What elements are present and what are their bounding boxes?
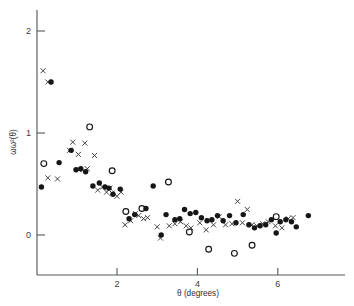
x-tick-label: 6 bbox=[275, 279, 280, 289]
point-cross bbox=[235, 199, 240, 204]
point-cross bbox=[197, 220, 202, 225]
point-filled-circle bbox=[246, 222, 251, 227]
x-axis-label: θ (degrees) bbox=[177, 289, 219, 298]
point-filled-circle bbox=[83, 169, 88, 174]
data-markers bbox=[39, 68, 311, 256]
point-filled-circle bbox=[48, 79, 53, 84]
point-filled-circle bbox=[283, 217, 288, 222]
point-cross bbox=[273, 223, 278, 228]
point-filled-circle bbox=[199, 215, 204, 220]
point-cross bbox=[92, 153, 97, 158]
point-filled-circle bbox=[306, 213, 311, 218]
x-tick-label: 4 bbox=[195, 279, 200, 289]
point-cross bbox=[55, 176, 60, 181]
point-cross bbox=[70, 140, 75, 145]
point-filled-circle bbox=[90, 183, 95, 188]
point-filled-circle bbox=[233, 220, 238, 225]
point-filled-circle bbox=[209, 217, 214, 222]
point-cross bbox=[184, 223, 189, 228]
point-cross bbox=[155, 224, 160, 229]
point-cross bbox=[82, 141, 87, 146]
point-cross bbox=[141, 216, 146, 221]
point-filled-circle bbox=[241, 212, 246, 217]
point-open-circle bbox=[109, 168, 115, 174]
point-cross bbox=[45, 175, 50, 180]
point-filled-circle bbox=[273, 230, 278, 235]
point-filled-circle bbox=[215, 213, 220, 218]
point-open-circle bbox=[123, 209, 129, 215]
y-tick-label: 0 bbox=[26, 230, 31, 240]
point-filled-circle bbox=[263, 222, 268, 227]
point-filled-circle bbox=[97, 180, 102, 185]
x-tick-label: 2 bbox=[114, 279, 119, 289]
point-filled-circle bbox=[163, 212, 168, 217]
point-cross bbox=[167, 223, 172, 228]
point-filled-circle bbox=[187, 211, 192, 216]
point-filled-circle bbox=[118, 186, 123, 191]
point-filled-circle bbox=[68, 148, 73, 153]
point-filled-circle bbox=[257, 223, 262, 228]
point-filled-circle bbox=[294, 224, 299, 229]
point-filled-circle bbox=[150, 183, 155, 188]
point-cross bbox=[76, 152, 81, 157]
point-filled-circle bbox=[204, 218, 209, 223]
point-cross bbox=[145, 215, 150, 220]
point-cross bbox=[123, 222, 128, 227]
point-open-circle bbox=[249, 242, 255, 248]
point-cross bbox=[204, 227, 209, 232]
point-filled-circle bbox=[159, 232, 164, 237]
point-filled-circle bbox=[177, 216, 182, 221]
scatter-plot-figure: 246012 θ (degrees) ωω²(θ) bbox=[0, 0, 354, 306]
point-open-circle bbox=[273, 214, 279, 220]
point-filled-circle bbox=[193, 210, 198, 215]
y-tick-label: 2 bbox=[26, 26, 31, 36]
point-open-circle bbox=[87, 124, 93, 130]
point-filled-circle bbox=[78, 166, 83, 171]
point-filled-circle bbox=[56, 160, 61, 165]
plot-canvas: 246012 θ (degrees) ωω²(θ) bbox=[0, 0, 354, 306]
point-cross bbox=[95, 188, 100, 193]
point-open-circle bbox=[206, 246, 212, 252]
point-cross bbox=[245, 207, 250, 212]
point-filled-circle bbox=[106, 185, 111, 190]
point-filled-circle bbox=[132, 212, 137, 217]
point-filled-circle bbox=[220, 218, 225, 223]
point-filled-circle bbox=[39, 184, 44, 189]
point-filled-circle bbox=[182, 207, 187, 212]
point-filled-circle bbox=[73, 167, 78, 172]
point-filled-circle bbox=[289, 219, 294, 224]
point-filled-circle bbox=[172, 217, 177, 222]
y-axis-label: ωω²(θ) bbox=[9, 129, 18, 155]
point-open-circle bbox=[41, 161, 47, 167]
point-filled-circle bbox=[278, 219, 283, 224]
point-open-circle bbox=[231, 250, 237, 256]
point-open-circle bbox=[166, 179, 172, 185]
point-filled-circle bbox=[252, 225, 257, 230]
y-tick-label: 1 bbox=[26, 128, 31, 138]
point-filled-circle bbox=[110, 192, 115, 197]
point-cross bbox=[279, 225, 284, 230]
point-filled-circle bbox=[227, 213, 232, 218]
series-filled-circle bbox=[39, 79, 311, 237]
point-filled-circle bbox=[126, 216, 131, 221]
point-cross bbox=[211, 222, 216, 227]
axis-ticks: 246012 bbox=[26, 26, 280, 289]
point-cross bbox=[41, 68, 46, 73]
point-cross bbox=[240, 220, 245, 225]
